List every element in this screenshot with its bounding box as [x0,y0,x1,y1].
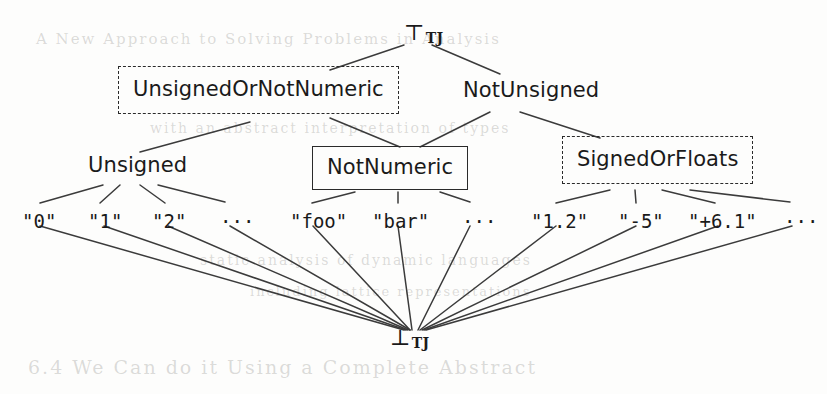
diagram-page: A New Approach to Solving Problems in An… [0,0,827,394]
edge-notNumeric-to-lit-foo [312,192,355,203]
literal-foo[interactable]: "foo" [290,212,347,231]
edge-notUnsigned-to-signedOrFloats [520,112,600,138]
literal-plus-six-point-one[interactable]: "+6.1" [688,212,757,231]
literal-bar[interactable]: "bar" [372,212,429,231]
bleed-through-text: including lattice representations [250,284,531,299]
edge-unsignedOrNotNumeric-to-unsigned [140,122,250,152]
edge-lit-2-to-bottom [168,226,408,330]
node-label: NotNumeric [327,155,453,179]
edge-signedOrFloats-to-lit-1.2 [556,190,610,203]
literal-two[interactable]: "2" [152,212,186,231]
node-top-symbol: ⊤ [404,20,425,45]
node-top: ⊤TJ [404,22,443,45]
literal-zero[interactable]: "0" [22,212,56,231]
node-label: UnsignedOrNotNumeric [133,77,384,101]
edge-unsigned-to-lit-0 [40,185,103,203]
edge-lit-bar-to-bottom [398,226,412,330]
bleed-through-text: with an abstract interpretation of types [150,120,510,136]
node-label: Unsigned [88,153,187,177]
edge-lit--5-to-bottom [422,226,636,330]
edge-signedOrFloats-to-lit-+6.1 [662,190,715,203]
edge-signedOrFloats-to-lit-s-dots [690,190,790,202]
bleed-through-text: 6.4 We Can do it Using a Complete Abstra… [28,356,537,378]
literal-one[interactable]: "1" [88,212,122,231]
ellipsis-signedorfloats: ··· [784,212,818,231]
node-unsignedornotnumeric[interactable]: UnsignedOrNotNumeric [118,66,399,114]
edge-unsigned-to-lit-u-dots [158,185,225,202]
node-top-subscript: TJ [426,30,444,46]
edge-unsigned-to-lit-2 [140,185,165,203]
node-notunsigned[interactable]: NotUnsigned [463,80,599,101]
literal-minus-five[interactable]: "-5" [618,212,664,231]
edge-lit-foo-to-bottom [313,226,410,330]
node-bottom-subscript: TJ [412,335,430,351]
literal-one-point-two[interactable]: "1.2" [531,212,588,231]
edge-lit-u-dots-to-bottom [230,226,410,330]
edge-lit-+6.1-to-bottom [424,226,718,330]
edge-notUnsigned-to-notNumeric [420,112,490,147]
edge-lit-s-dots-to-bottom [426,226,792,330]
ellipsis-notnumeric: ··· [462,212,496,231]
node-notnumeric[interactable]: NotNumeric [312,146,468,190]
edge-unsigned-to-lit-1 [100,185,120,203]
node-label: NotUnsigned [463,78,599,102]
edge-lit-1-to-bottom [104,226,406,330]
edge-notNumeric-to-lit-n-dots [440,192,470,202]
node-bottom: ⊥TJ [390,327,429,350]
ellipsis-unsigned: ··· [220,212,254,231]
edge-top-to-notUnsigned [432,45,500,74]
edge-lit-0-to-bottom [40,226,404,330]
node-unsigned[interactable]: Unsigned [88,155,187,176]
edge-lit-1.2-to-bottom [420,226,556,330]
edge-signedOrFloats-to-lit--5 [635,190,636,203]
edge-lit-n-dots-to-bottom [418,226,470,330]
edge-unsignedOrNotNumeric-to-notNumeric [330,118,400,147]
bleed-through-text: static analysis of dynamic languages [200,252,532,268]
node-signedorfloats[interactable]: SignedOrFloats [562,136,753,184]
node-label: SignedOrFloats [577,147,738,171]
node-bottom-symbol: ⊥ [390,325,411,350]
